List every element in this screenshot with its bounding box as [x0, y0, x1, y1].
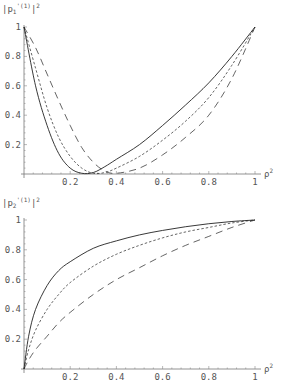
top-x-tick-label: 0.4	[108, 177, 124, 187]
bottom-x-tick-label: 1	[252, 372, 257, 382]
top-axes: 0.20.40.60.810.20.40.60.81	[5, 22, 261, 187]
top-x-axis-title: ρ2	[264, 167, 273, 179]
bottom-x-tick-label: 0.2	[62, 372, 78, 382]
bottom-axes: 0.20.40.60.810.20.40.60.81	[5, 215, 261, 382]
top-y-tick-label: 1	[16, 22, 21, 32]
bottom-x-tick-label: 0.6	[154, 372, 170, 382]
bottom-y-tick-label: 1	[16, 215, 21, 225]
top-y-tick-label: 0.4	[5, 110, 21, 120]
bottom-curve-short-dashed	[24, 220, 255, 369]
top-plot: 0.20.40.60.810.20.40.60.81 |p1'(1)|2 ρ2	[2, 2, 273, 187]
bottom-y-tick-label: 0.4	[5, 304, 21, 314]
bottom-y-tick-label: 0.8	[5, 245, 21, 255]
top-y-tick-label: 0.8	[5, 51, 21, 61]
figure: 0.20.40.60.810.20.40.60.81 |p1'(1)|2 ρ2 …	[0, 0, 285, 383]
top-curves	[24, 27, 255, 174]
top-y-axis-title: |p1'(1)|2	[2, 2, 40, 15]
top-y-tick-label: 0.6	[5, 81, 21, 91]
bottom-y-axis-title: |p2'(1)|2	[2, 196, 40, 209]
top-x-tick-label: 0.6	[154, 177, 170, 187]
top-curve-short-dashed	[24, 27, 255, 174]
bottom-curves	[24, 220, 255, 369]
bottom-y-tick-label: 0.6	[5, 275, 21, 285]
bottom-x-tick-label: 0.8	[201, 372, 217, 382]
bottom-x-axis-title: ρ2	[264, 362, 273, 374]
bottom-y-tick-label: 0.2	[5, 334, 21, 344]
top-x-tick-label: 0.2	[62, 177, 78, 187]
bottom-x-tick-label: 0.4	[108, 372, 124, 382]
top-x-tick-label: 0.8	[201, 177, 217, 187]
top-y-tick-label: 0.2	[5, 140, 21, 150]
top-x-tick-label: 1	[252, 177, 257, 187]
bottom-plot: 0.20.40.60.810.20.40.60.81 |p2'(1)|2 ρ2	[2, 196, 273, 382]
top-curve-long-dashed	[24, 27, 255, 173]
top-curve-solid	[24, 27, 255, 174]
